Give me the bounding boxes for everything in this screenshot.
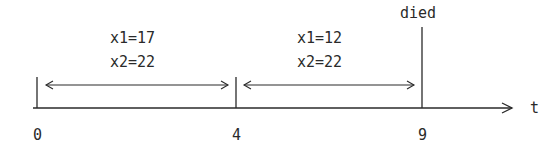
interval-1-line1: x1=17 [110,29,155,47]
tick-label-0: 0 [33,126,42,144]
axis-label: t [530,99,539,117]
interval-1-arrow [46,81,228,89]
interval-2-arrow [244,81,414,89]
tick-label-4: 4 [232,126,241,144]
timeline-diagram: t 0 4 9 died x1=17 x2=22 x1=12 x2=22 [0,0,557,152]
event-label-died: died [400,4,436,22]
tick-label-9: 9 [418,126,427,144]
time-axis [33,103,512,113]
interval-2-line2: x2=22 [297,53,342,71]
interval-2-line1: x1=12 [297,29,342,47]
interval-1-line2: x2=22 [110,53,155,71]
tick-marks [37,27,422,108]
